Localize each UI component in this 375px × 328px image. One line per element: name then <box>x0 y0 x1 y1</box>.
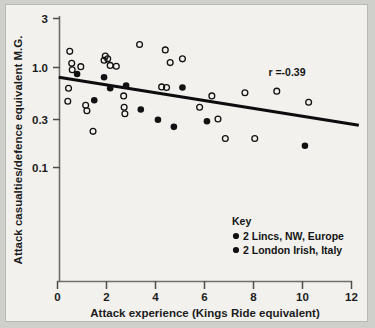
data-point <box>180 56 186 62</box>
data-point <box>69 60 75 66</box>
data-point <box>107 85 114 92</box>
trendline <box>59 77 359 125</box>
y-axis-tick-labels: 3 1.0 0.3 0.1 <box>32 13 49 174</box>
data-point <box>84 108 90 114</box>
y-tick-label-0-3: 0.3 <box>32 114 48 126</box>
data-point <box>66 85 72 91</box>
data-point <box>137 42 143 48</box>
x-tick-label-10: 10 <box>296 291 309 303</box>
x-tick-label-2: 2 <box>103 291 109 303</box>
data-point <box>242 90 248 96</box>
data-point <box>122 111 128 117</box>
data-point <box>78 64 84 70</box>
data-point <box>69 67 75 73</box>
data-point <box>302 142 309 149</box>
figure-container: 3 1.0 0.3 0.1 0 2 4 6 8 10 12 Attack exp… <box>0 0 375 328</box>
data-point <box>197 104 203 110</box>
series-open-circles <box>65 42 312 142</box>
data-point <box>215 116 221 122</box>
data-point <box>113 63 119 69</box>
data-point <box>121 93 127 99</box>
data-point <box>204 118 211 125</box>
x-axis-title: Attack experience (Kings Ride equivalent… <box>90 307 320 319</box>
data-point <box>107 62 113 68</box>
x-tick-label-12: 12 <box>345 291 358 303</box>
data-point <box>91 97 98 104</box>
x-tick-label-0: 0 <box>54 291 60 303</box>
axes <box>57 16 352 282</box>
data-point <box>167 60 173 66</box>
trendline-segment <box>59 77 359 125</box>
legend-label-0: 2 Lincs, NW, Europe <box>243 230 344 242</box>
legend-label-1: 2 London Irish, Italy <box>243 244 342 256</box>
data-point <box>65 98 71 104</box>
data-point <box>101 74 108 81</box>
data-point <box>83 102 89 108</box>
x-tick-label-6: 6 <box>201 291 207 303</box>
x-tick-label-4: 4 <box>152 291 159 303</box>
y-tick-label-3: 3 <box>42 13 48 25</box>
data-point <box>74 71 81 78</box>
data-point <box>162 47 168 53</box>
data-point <box>171 124 178 131</box>
data-point <box>123 82 130 89</box>
y-tick-label-1: 1.0 <box>32 62 48 74</box>
data-point <box>155 116 162 123</box>
data-point <box>121 104 127 110</box>
data-point <box>252 136 258 142</box>
legend-marker-0 <box>233 233 239 239</box>
data-point <box>306 99 312 105</box>
y-tick-label-0-1: 0.1 <box>32 162 49 174</box>
legend: Key 2 Lincs, NW, Europe 2 London Irish, … <box>232 215 344 256</box>
data-point <box>90 128 96 134</box>
legend-marker-1 <box>233 247 239 253</box>
x-tick-label-8: 8 <box>250 291 257 303</box>
data-point <box>179 84 186 91</box>
data-point <box>138 106 145 113</box>
legend-title: Key <box>232 215 251 227</box>
y-axis-title: Attack casualties/defence equivalent M.G… <box>12 36 24 265</box>
data-point <box>67 48 73 54</box>
x-axis-tick-labels: 0 2 4 6 8 10 12 <box>54 291 358 303</box>
scatter-chart: 3 1.0 0.3 0.1 0 2 4 6 8 10 12 Attack exp… <box>0 0 375 328</box>
correlation-annotation: r =-0.39 <box>268 66 305 78</box>
data-point <box>209 93 215 99</box>
data-point <box>222 136 228 142</box>
data-point <box>274 88 280 94</box>
